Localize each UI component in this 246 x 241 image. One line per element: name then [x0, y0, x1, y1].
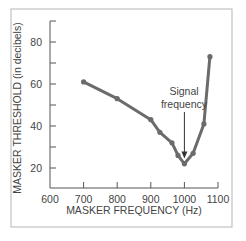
y-tick-label: 60 [30, 78, 42, 90]
data-point [148, 117, 153, 122]
y-tick-label: 80 [30, 36, 42, 48]
y-tick-label: 40 [30, 120, 42, 132]
masking-chart: 2040608060070080090010001100 MASKER THRE… [0, 0, 246, 241]
data-point [81, 79, 86, 84]
data-point [175, 153, 180, 158]
annotation-line2: frequency [161, 98, 208, 110]
x-tick-label: 1100 [207, 193, 230, 205]
data-point [191, 151, 196, 156]
y-tick-label: 20 [30, 162, 42, 174]
x-tick-label: 600 [41, 193, 59, 205]
data-point [157, 130, 162, 135]
data-point [207, 54, 212, 59]
y-axis-label: MASKER THRESHOLD (in decibels) [11, 22, 23, 193]
data-point [115, 96, 120, 101]
annotation-line1: Signal [169, 85, 198, 97]
data-point [201, 121, 206, 126]
data-point [169, 140, 174, 145]
data-point [182, 161, 187, 166]
x-axis-label: MASKER FREQUENCY (Hz) [66, 204, 202, 216]
